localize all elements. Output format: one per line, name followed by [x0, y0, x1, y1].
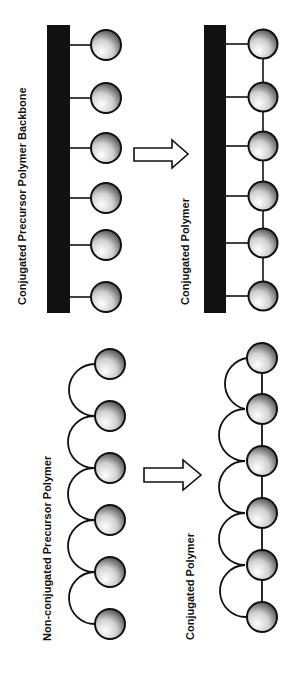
sphere [249, 229, 278, 258]
sphere [91, 183, 121, 213]
sphere [249, 182, 278, 211]
sphere [95, 609, 125, 639]
sphere [95, 401, 125, 431]
precursor-backbone-polymer [47, 25, 121, 313]
conjugated-polymer [219, 343, 277, 632]
chain-arcs [219, 358, 247, 617]
sphere [249, 282, 278, 311]
sphere [247, 602, 277, 632]
non-conjugated-precursor-polymer [68, 349, 125, 639]
sphere [247, 446, 277, 476]
sphere [247, 498, 277, 528]
sphere [249, 83, 278, 112]
conjugated-polymer-label-top: Conjugated Polymer [179, 198, 191, 305]
sphere [91, 282, 121, 312]
sphere [95, 557, 125, 587]
sphere [95, 349, 125, 379]
sphere [91, 83, 121, 113]
chain-arcs [68, 364, 96, 624]
sphere [249, 132, 278, 161]
sphere [91, 230, 121, 260]
conjugated-backbone-polymer [204, 25, 278, 313]
backbone-bar [204, 25, 226, 313]
monomer-spheres [95, 349, 125, 639]
non-conjugated-precursor-label: Non-conjugated Precursor Polymer [41, 456, 53, 641]
sphere [91, 30, 121, 60]
sphere [249, 30, 278, 59]
sphere [95, 453, 125, 483]
sphere [247, 550, 277, 580]
sphere [91, 133, 121, 163]
conjugated-polymer-label-bottom: Conjugated Polymer [184, 533, 196, 640]
sphere [247, 343, 277, 373]
sphere [95, 505, 125, 535]
backbone-bar [47, 25, 70, 313]
pendant-links [226, 44, 263, 296]
pendant-links [70, 45, 91, 297]
reaction-arrow-icon [144, 460, 201, 490]
sphere [247, 394, 277, 424]
reaction-arrow-icon [134, 140, 188, 168]
precursor-backbone-label: Conjugated Precursor Polymer Backbone [16, 87, 28, 305]
pendant-spheres [91, 30, 121, 312]
